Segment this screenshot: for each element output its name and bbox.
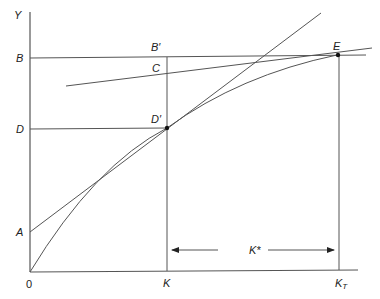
production-curve	[30, 55, 337, 272]
label-K: K	[163, 277, 171, 289]
label-E: E	[333, 40, 341, 52]
label-K-star: K*	[249, 244, 261, 256]
label-KT: KT	[335, 277, 348, 291]
origin-label: 0	[26, 278, 32, 290]
diagram-canvas: Y B D A 0 K KT B′ C D′ E K*	[0, 0, 380, 299]
x-axis	[30, 270, 358, 272]
y-axis-label: Y	[14, 9, 22, 21]
label-B: B	[16, 52, 23, 64]
label-D-prime: D′	[151, 113, 162, 125]
label-A: A	[15, 226, 23, 238]
label-C: C	[152, 62, 160, 74]
label-B-prime: B′	[151, 41, 161, 53]
line-D	[30, 128, 167, 129]
tangent-line-CE	[66, 48, 372, 86]
point-D-prime	[165, 126, 169, 130]
label-D: D	[16, 123, 24, 135]
point-E	[336, 53, 340, 57]
